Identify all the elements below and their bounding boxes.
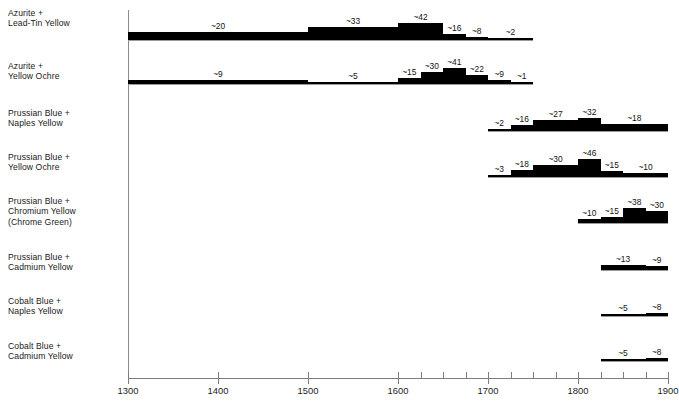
bar-value-label: ~9 xyxy=(646,256,669,265)
bar-segment xyxy=(646,358,669,361)
x-axis-tick-label: 1900 xyxy=(644,385,679,396)
series-baseline xyxy=(578,223,668,224)
bar-value-label: ~8 xyxy=(466,27,489,36)
x-tick-minor xyxy=(443,372,444,378)
x-axis-tick-label: 1400 xyxy=(194,385,242,396)
series-baseline xyxy=(488,177,668,178)
bar-segment xyxy=(398,78,421,84)
bar-segment xyxy=(308,82,398,84)
bar-segment xyxy=(488,38,533,40)
bar-segment xyxy=(466,37,489,40)
bar-value-label: ~16 xyxy=(511,115,534,124)
bar-segment xyxy=(578,159,601,177)
x-tick-major xyxy=(218,378,219,384)
series-baseline xyxy=(601,361,669,362)
row-label-prussian-blue-naples-yellow: Prussian Blue + Naples Yellow xyxy=(8,108,120,129)
bar-value-label: ~3 xyxy=(488,165,511,174)
bar-segment xyxy=(601,359,646,361)
row-label-prussian-blue-chromium-yellow: Prussian Blue + Chromium Yellow (Chrome … xyxy=(8,196,120,227)
x-tick-minor xyxy=(646,372,647,378)
bar-segment xyxy=(601,314,646,316)
x-axis-tick-label: 1500 xyxy=(284,385,332,396)
x-tick-major xyxy=(668,378,669,384)
x-tick-minor xyxy=(601,372,602,378)
x-tick-major xyxy=(128,378,129,384)
row-label-azurite-lead-tin-yellow: Azurite + Lead-Tin Yellow xyxy=(8,8,120,29)
bar-value-label: ~15 xyxy=(601,207,624,216)
x-tick-minor xyxy=(421,372,422,378)
bar-segment xyxy=(578,118,601,131)
bar-value-label: ~1 xyxy=(511,72,534,81)
bar-value-label: ~2 xyxy=(488,119,511,128)
bar-segment xyxy=(511,125,534,131)
bar-value-label: ~8 xyxy=(646,348,669,357)
bar-segment xyxy=(623,208,646,223)
pigment-timeline-chart: Azurite + Lead-Tin Yellow Azurite + Yell… xyxy=(0,0,679,404)
bar-segment xyxy=(421,72,444,84)
row-label-cobalt-blue-cadmium-yellow: Cobalt Blue + Cadmium Yellow xyxy=(8,341,120,362)
bar-segment xyxy=(128,32,308,40)
bar-segment xyxy=(398,23,443,40)
bar-segment xyxy=(601,171,624,177)
x-tick-minor xyxy=(533,372,534,378)
bar-segment xyxy=(511,82,534,84)
bar-value-label: ~30 xyxy=(646,201,669,210)
x-axis-tick-label: 1300 xyxy=(104,385,152,396)
bar-segment xyxy=(646,266,669,270)
x-tick-major-upper xyxy=(578,372,579,378)
x-tick-major-upper xyxy=(488,372,489,378)
x-axis-tick-label: 1600 xyxy=(374,385,422,396)
x-tick-major xyxy=(308,378,309,384)
row-label-prussian-blue-yellow-ochre: Prussian Blue + Yellow Ochre xyxy=(8,152,120,173)
bar-segment xyxy=(511,170,534,177)
bar-segment xyxy=(601,124,669,131)
row-label-cobalt-blue-naples-yellow: Cobalt Blue + Naples Yellow xyxy=(8,296,120,317)
bar-segment xyxy=(488,175,511,177)
bar-value-label: ~33 xyxy=(308,17,398,26)
bar-segment xyxy=(466,75,489,84)
series-baseline xyxy=(128,84,533,85)
x-tick-minor xyxy=(623,372,624,378)
x-tick-major xyxy=(578,378,579,384)
bar-value-label: ~42 xyxy=(398,13,443,22)
bar-segment xyxy=(488,80,511,84)
bar-value-label: ~32 xyxy=(578,108,601,117)
bar-segment xyxy=(646,313,669,316)
bar-segment xyxy=(623,173,668,177)
x-tick-minor xyxy=(556,372,557,378)
x-tick-major-upper xyxy=(218,372,219,378)
bar-value-label: ~15 xyxy=(601,161,624,170)
bar-value-label: ~2 xyxy=(488,28,533,37)
bar-value-label: ~9 xyxy=(488,70,511,79)
bar-value-label: ~41 xyxy=(443,58,466,67)
bar-value-label: ~27 xyxy=(533,110,578,119)
bar-value-label: ~18 xyxy=(601,114,669,123)
bar-segment xyxy=(646,211,669,223)
x-axis-tick-label: 1800 xyxy=(554,385,602,396)
bar-segment xyxy=(128,80,308,84)
series-baseline xyxy=(488,131,668,132)
x-tick-minor xyxy=(511,372,512,378)
bar-segment xyxy=(533,165,578,177)
bar-value-label: ~16 xyxy=(443,24,466,33)
bar-value-label: ~8 xyxy=(646,303,669,312)
series-baseline xyxy=(128,40,533,41)
bar-value-label: ~46 xyxy=(578,149,601,158)
bar-value-label: ~18 xyxy=(511,160,534,169)
plot-area: ~20~33~42~16~8~2~9~5~15~30~41~22~9~1~2~1… xyxy=(128,10,668,378)
x-tick-major xyxy=(488,378,489,384)
bar-segment xyxy=(601,265,646,270)
bar-value-label: ~5 xyxy=(601,304,646,313)
x-tick-major-upper xyxy=(308,372,309,378)
bar-value-label: ~10 xyxy=(578,209,601,218)
bar-value-label: ~10 xyxy=(623,163,668,172)
x-tick-major xyxy=(398,378,399,384)
bar-value-label: ~22 xyxy=(466,65,489,74)
row-label-azurite-yellow-ochre: Azurite + Yellow Ochre xyxy=(8,61,120,82)
x-axis-tick-label: 1700 xyxy=(464,385,512,396)
bar-value-label: ~38 xyxy=(623,198,646,207)
x-tick-major-upper xyxy=(398,372,399,378)
x-tick-major-upper xyxy=(128,372,129,378)
series-baseline xyxy=(601,270,669,271)
bar-segment xyxy=(578,219,601,223)
